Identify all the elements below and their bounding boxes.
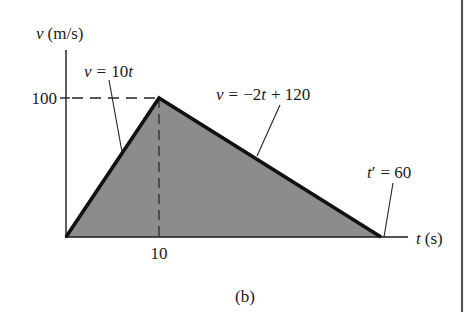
annotation-rising-equation: v=10t xyxy=(84,62,134,81)
annotation-falling-equation: v=−2t+ 120 xyxy=(216,85,310,104)
leader-line-falling xyxy=(257,105,280,156)
leader-line-end-time xyxy=(384,183,393,237)
x-tick-label-10: 10 xyxy=(151,244,168,263)
x-axis-label: t(s) xyxy=(416,229,443,248)
velocity-time-diagram: v(m/s) 100 10 t(s) v=10t v=−2t+ 120 t′= … xyxy=(0,0,470,312)
y-axis-label: v(m/s) xyxy=(36,24,83,43)
panel-label: (b) xyxy=(235,287,255,306)
y-tick-label-100: 100 xyxy=(32,89,58,108)
leader-line-rising xyxy=(109,80,122,152)
annotation-end-time: t′= 60 xyxy=(367,163,411,182)
